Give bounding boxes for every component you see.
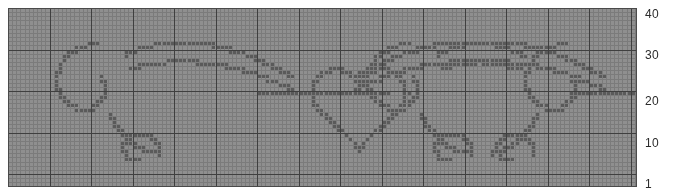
pattern-chart-root: 40 30 20 10 1 — [0, 0, 677, 195]
axis-tick-20: 20 — [645, 95, 659, 107]
stitch-grid-plot[interactable] — [8, 8, 637, 187]
axis-tick-40: 40 — [645, 8, 659, 20]
stitch-pattern-layer — [8, 8, 637, 187]
axis-tick-30: 30 — [645, 49, 659, 61]
right-axis: 40 30 20 10 1 — [645, 0, 677, 195]
axis-tick-10: 10 — [645, 137, 659, 149]
axis-tick-1: 1 — [645, 178, 652, 190]
